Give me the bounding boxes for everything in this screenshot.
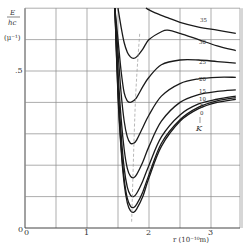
y-axis-label-denominator: hc xyxy=(8,19,17,27)
x-tick-0: 0 xyxy=(24,228,29,237)
curve-label-35: 35 xyxy=(200,17,207,23)
y-axis-label-numerator: E xyxy=(9,9,15,17)
curve-label-30: 30 xyxy=(199,39,206,45)
y-tick-0: 0 xyxy=(18,225,23,234)
grid xyxy=(25,8,242,228)
curves xyxy=(115,8,236,222)
curve-label-5: 5 xyxy=(200,103,204,109)
x-tick-2: 2 xyxy=(146,228,151,237)
curve-label-0: 0 xyxy=(200,110,204,116)
curve-label-25: 25 xyxy=(199,59,206,65)
curve-label-15: 15 xyxy=(199,88,206,94)
potential-energy-chart: E hc (μ⁻¹) .5 0 0 1 2 3 r (10⁻¹⁰m) 35 30… xyxy=(0,0,244,247)
minima-locus-dashed-line xyxy=(132,33,140,221)
curve-k-30 xyxy=(118,8,236,58)
curve-label-20: 20 xyxy=(199,76,206,82)
curve-k-35 xyxy=(146,8,236,33)
y-axis-unit: (μ⁻¹) xyxy=(4,34,21,42)
curve-label-10: 10 xyxy=(199,96,206,102)
y-tick-0.5: .5 xyxy=(15,66,23,75)
curve-k-25 xyxy=(115,8,236,102)
x-tick-1: 1 xyxy=(84,228,89,237)
x-axis-label: r (10⁻¹⁰m) xyxy=(173,236,209,244)
curve-k-15 xyxy=(115,8,236,178)
k-label: K xyxy=(195,124,203,133)
